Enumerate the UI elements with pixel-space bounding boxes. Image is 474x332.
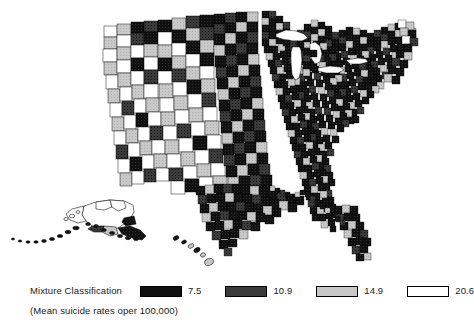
choropleth-map xyxy=(0,0,441,276)
legend-entry-4: 20.6 xyxy=(407,284,474,298)
legend-value-class-1: 7.5 xyxy=(188,284,202,298)
legend-class-row: Mixture Classification 7.5 10.9 14.9 20.… xyxy=(30,284,474,298)
legend-entry-3: 14.9 xyxy=(316,284,383,298)
legend-entry-1: 7.5 xyxy=(140,284,202,298)
legend-title: Mixture Classification xyxy=(30,284,122,298)
map-canvas xyxy=(0,0,441,276)
region-west xyxy=(103,15,227,194)
legend-value-class-3: 14.9 xyxy=(364,284,383,298)
legend-subtitle: (Mean suicide rates oper 100,000) xyxy=(30,304,178,318)
legend-swatch-class-1 xyxy=(140,286,182,297)
legend-entry-2: 10.9 xyxy=(225,284,292,298)
legend-swatch-class-2 xyxy=(225,286,267,297)
legend-value-class-2: 10.9 xyxy=(273,284,292,298)
map-legend: Mixture Classification 7.5 10.9 14.9 20.… xyxy=(0,276,441,332)
legend-value-class-4: 20.6 xyxy=(455,284,474,298)
legend-swatch-class-3 xyxy=(316,286,358,297)
legend-swatch-class-4 xyxy=(407,286,449,297)
